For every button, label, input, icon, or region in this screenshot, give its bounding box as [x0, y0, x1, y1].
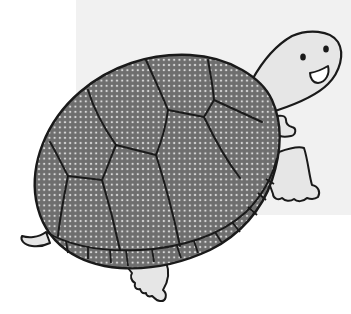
right-eye: [323, 45, 329, 52]
turtle-illustration: [0, 0, 351, 314]
tail: [21, 232, 50, 246]
left-eye: [300, 53, 306, 60]
